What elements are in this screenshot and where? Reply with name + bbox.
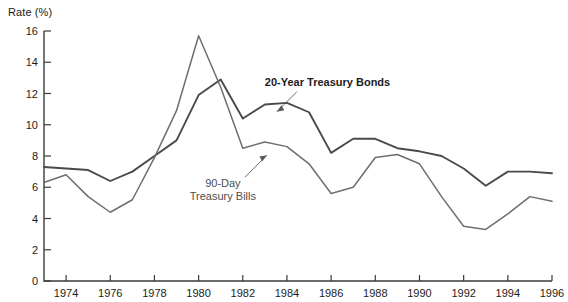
y-tick-label: 12 [26,88,38,100]
x-tick-label: 1988 [363,287,387,299]
chart-svg: 0246810121416197419761978198019821984198… [0,0,568,302]
series-line-bonds [44,79,552,185]
y-tick-label: 4 [32,213,38,225]
x-tick-label: 1982 [231,287,255,299]
y-tick-label: 8 [32,150,38,162]
x-tick-label: 1986 [319,287,343,299]
bonds-annotation-label: 20-Year Treasury Bonds [265,76,390,88]
bills-annotation-line-0: 90-Day [205,177,241,189]
y-tick-label: 0 [32,275,38,287]
y-tick-label: 10 [26,119,38,131]
x-tick-label: 1980 [186,287,210,299]
bills-annotation-line-1: Treasury Bills [190,190,257,202]
x-tick-label: 1974 [54,287,78,299]
series-line-bills [44,36,552,230]
y-tick-label: 2 [32,244,38,256]
x-tick-label: 1990 [407,287,431,299]
bonds-leader-arrowhead [277,105,285,112]
bills-leader-arrowhead [259,155,267,161]
y-tick-label: 16 [26,25,38,37]
rate-chart: Rate (%) 0246810121416197419761978198019… [0,0,568,302]
x-tick-label: 1978 [142,287,166,299]
y-tick-label: 6 [32,181,38,193]
x-tick-label: 1984 [275,287,299,299]
x-tick-label: 1996 [540,287,564,299]
x-tick-label: 1976 [98,287,122,299]
y-tick-label: 14 [26,56,38,68]
x-tick-label: 1992 [451,287,475,299]
x-tick-label: 1994 [496,287,520,299]
